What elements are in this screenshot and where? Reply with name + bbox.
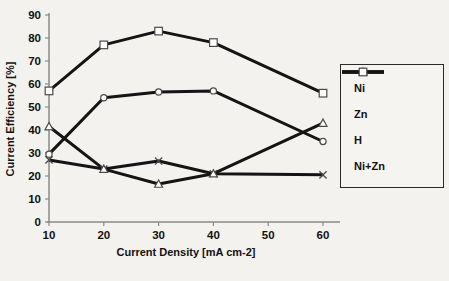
legend-label: H [354,134,362,146]
legend-item-Ni+Zn: Ni+Zn [349,153,437,179]
legend-item-H: H [349,127,437,153]
y-tick-label: 20 [28,170,41,182]
series-line-Ni+Zn [49,31,323,93]
legend-label: Zn [354,108,367,120]
marker-circle [46,151,52,157]
y-tick-label: 60 [28,78,41,90]
x-tick-label: 10 [43,229,56,241]
marker-circle [210,88,216,94]
series-line-Ni [49,160,323,175]
x-tick-label: 60 [317,229,330,241]
y-axis-title: Current Efficiency [%] [4,62,16,177]
y-tick-label: 40 [28,124,41,136]
legend-label: Ni+Zn [354,160,385,172]
legend-label: Ni [354,82,365,94]
marker-square [100,41,108,49]
x-tick-label: 50 [262,229,275,241]
y-tick-label: 50 [28,101,41,113]
x-tick-label: 20 [97,229,110,241]
y-tick-label: 0 [35,216,41,228]
y-tick-label: 80 [28,32,41,44]
legend-sample-square-icon [341,65,385,79]
y-tick-label: 70 [28,55,41,67]
marker-triangle [45,123,53,130]
series-line-Zn [49,91,323,154]
marker-circle [156,89,162,95]
y-tick-label: 10 [28,193,41,205]
marker-circle [101,95,107,101]
marker-triangle [319,119,327,126]
chart-figure: 0102030405060708090102030405060 Current … [0,0,449,281]
y-tick-label: 30 [28,147,41,159]
marker-square [319,89,327,97]
legend-item-Zn: Zn [349,101,437,127]
y-tick-label: 90 [28,9,41,21]
marker-circle [320,138,326,144]
x-tick-label: 30 [152,229,165,241]
marker-square [45,87,53,95]
x-tick-label: 40 [207,229,220,241]
legend: NiZnHNi+Zn [340,64,444,188]
x-axis-title: Current Density [mA cm-2] [117,246,256,258]
marker-square [359,68,367,76]
marker-square [155,27,163,35]
marker-square [210,39,218,47]
